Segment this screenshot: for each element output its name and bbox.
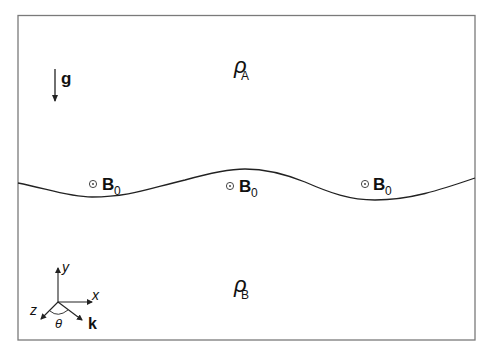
- b0-label: B: [239, 177, 251, 196]
- dot-circle-center-icon: [364, 183, 366, 185]
- b0-subscript: 0: [114, 184, 121, 198]
- rho-b-subscript: B: [241, 288, 249, 302]
- gravity-label: g: [61, 69, 71, 88]
- b0-subscript: 0: [251, 186, 258, 200]
- rho-a-subscript: A: [241, 69, 249, 83]
- b0-label: B: [102, 175, 114, 194]
- b0-label: B: [373, 175, 385, 194]
- y-axis-label: y: [61, 259, 70, 275]
- x-axis-label: x: [91, 287, 100, 303]
- k-vector-label: k: [88, 315, 97, 332]
- theta-label: θ: [55, 316, 62, 331]
- diagram-canvas: ρ A ρ B g B 0 B 0 B 0 y x z: [0, 0, 491, 358]
- dot-circle-center-icon: [92, 183, 94, 185]
- z-axis-label: z: [29, 302, 37, 318]
- b0-subscript: 0: [385, 184, 392, 198]
- dot-circle-center-icon: [229, 185, 231, 187]
